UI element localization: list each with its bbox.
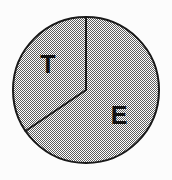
pie-chart-svg: T E [0, 0, 172, 180]
pie-slice-label-e: E [111, 101, 128, 129]
pie-diagram: T E [0, 0, 172, 180]
pie-slice-label-t: T [40, 50, 55, 78]
